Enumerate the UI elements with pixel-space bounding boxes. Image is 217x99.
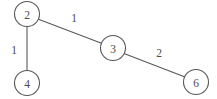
node-3-label: 3 [110,43,116,55]
graph-canvas: 1 1 2 2 4 3 6 [0,0,217,99]
edge-label-2-4: 1 [11,44,17,56]
edge-2-3 [39,19,102,43]
nodes-group: 2 4 3 6 [15,2,209,96]
graph-diagram: 1 1 2 2 4 3 6 [0,0,217,99]
edge-label-3-6: 2 [156,47,162,59]
node-4-label: 4 [24,78,30,90]
node-2-label: 2 [24,9,30,21]
edge-label-2-3: 1 [71,12,77,24]
node-6-label: 6 [193,77,199,89]
edge-3-6 [125,54,185,77]
